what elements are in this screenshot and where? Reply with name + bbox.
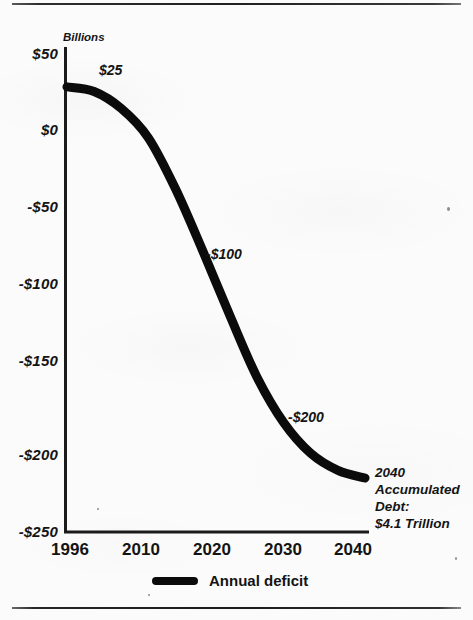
accumulated-debt-note: 2040 Accumulated Debt: $4.1 Trillion [375,464,460,532]
y-tick-label-neg100: -$100 [0,275,58,292]
x-tick-label-2010: 2010 [106,540,176,560]
accumulated-debt-note-line-2: Accumulated [375,481,460,498]
scan-speck [148,594,150,596]
annotation-25: $25 [99,62,122,78]
y-tick-label-50: $50 [0,45,58,62]
y-tick-label-0: $0 [0,121,58,138]
y-tick-label-neg50: -$50 [0,198,58,215]
legend-label-annual-deficit: Annual deficit [209,572,308,589]
annotation-neg200: -$200 [288,409,324,425]
scan-speck [455,557,457,560]
chart-figure: Billions $50 $0 -$50 -$100 -$150 -$200 -… [0,0,473,620]
annotation-neg100: -$100 [206,246,242,262]
y-tick-label-neg250: -$250 [0,523,58,540]
accumulated-debt-note-line-3: Debt: [375,498,460,515]
scan-speck [447,207,450,211]
line-swatch-icon [152,577,198,585]
scan-speck [97,508,99,510]
y-axis-unit-label: Billions [63,31,105,43]
x-tick-label-2020: 2020 [177,540,247,560]
x-tick-label-2030: 2030 [248,540,318,560]
x-tick-label-1996: 1996 [35,540,105,560]
y-tick-label-neg200: -$200 [0,446,58,463]
y-tick-label-neg150: -$150 [0,352,58,369]
chart-legend: Annual deficit [152,572,308,589]
accumulated-debt-note-line-1: 2040 [375,464,460,481]
accumulated-debt-note-line-4: $4.1 Trillion [375,515,460,532]
x-tick-label-2040: 2040 [318,540,388,560]
